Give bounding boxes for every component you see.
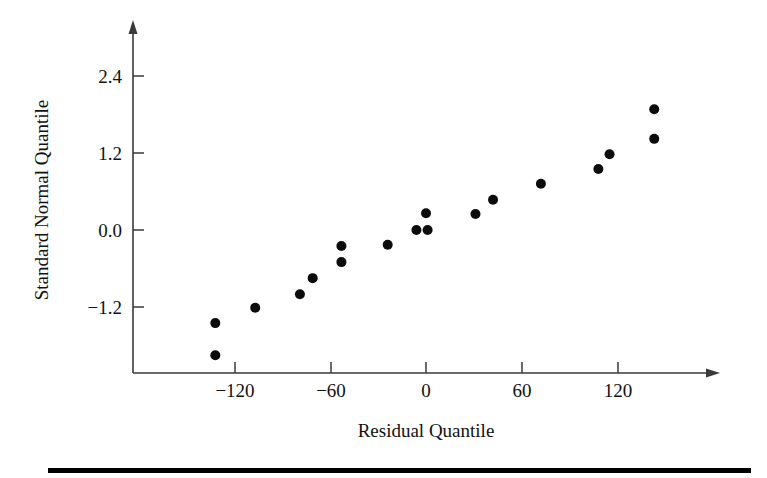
data-point [421,208,431,218]
data-point [423,225,433,235]
x-tick-label-120: 120 [604,380,633,401]
scatter-points-layer [210,104,659,360]
x-axis-ticks [235,362,618,373]
data-point [308,273,318,283]
bottom-rule [48,468,751,473]
x-axis-title: Residual Quantile [358,420,495,441]
y-axis [129,20,138,373]
data-point [649,104,659,114]
scatter-plot-canvas: 2.4 1.2 0.0 −1.2 −120 −60 0 60 120 Resid… [0,0,767,478]
qq-plot-figure: 2.4 1.2 0.0 −1.2 −120 −60 0 60 120 Resid… [0,0,767,478]
data-point [536,179,546,189]
y-axis-tick-labels: 2.4 1.2 0.0 −1.2 [88,66,123,318]
data-point [250,303,260,313]
data-point [593,164,603,174]
x-axis-tick-labels: −120 −60 0 60 120 [215,380,632,401]
y-tick-label-neg-1-2: −1.2 [88,297,122,318]
x-tick-label-neg-60: −60 [316,380,346,401]
data-point [470,209,480,219]
data-point [411,225,421,235]
x-tick-label-neg-120: −120 [215,380,254,401]
x-tick-label-60: 60 [513,380,532,401]
data-point [488,195,498,205]
y-axis-ticks [133,76,144,307]
y-tick-label-1-2: 1.2 [98,143,122,164]
data-point [295,289,305,299]
data-point [605,149,615,159]
data-point [383,240,393,250]
y-tick-label-2-4: 2.4 [98,66,122,87]
data-point [649,134,659,144]
y-axis-title: Standard Normal Quantile [31,100,52,301]
x-axis-arrow-icon [706,369,720,378]
data-point [336,257,346,267]
y-tick-label-0-0: 0.0 [98,220,122,241]
data-point [336,241,346,251]
y-axis-arrow-icon [129,20,138,34]
x-tick-label-0: 0 [421,380,431,401]
data-point [210,318,220,328]
data-point [210,350,220,360]
